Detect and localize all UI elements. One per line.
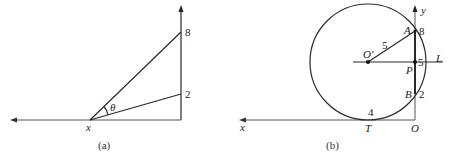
figure-b-origin-label: O [411, 122, 419, 134]
figure-b-center-point [366, 60, 370, 64]
figure-a-angle-label: θ [110, 101, 116, 113]
figure-b-line-L-label: L [435, 52, 442, 64]
figure-b-center-label: O' [363, 48, 374, 60]
figure-b-label-B: B [405, 88, 412, 100]
figure-a-left-arrow-icon [10, 118, 17, 123]
figure-b-x-axis-label: x [239, 121, 245, 133]
figure-a-angle-arc [104, 107, 108, 115]
figure-b-up-arrow-icon [413, 5, 418, 12]
figure-a-label-8: 8 [185, 26, 191, 38]
diagram-canvas: θ 8 2 x (a) y x A 8 5 O' L P 5 B 2 [0, 0, 451, 161]
figure-a-vertex-label: x [85, 121, 91, 133]
figure-b-y-axis-label: y [420, 4, 426, 16]
figure-b-label-P: P [405, 64, 413, 76]
figure-b-point-P [413, 60, 417, 64]
figure-b-label-A: A [403, 24, 411, 36]
figure-b: y x A 8 5 O' L P 5 B 2 4 T O (b) [239, 4, 443, 152]
figure-b-caption: (b) [326, 139, 339, 152]
figure-a-label-2: 2 [185, 88, 191, 100]
figure-b-label-4: 4 [368, 106, 374, 118]
figure-b-label-8: 8 [419, 25, 425, 37]
figure-a-caption: (a) [98, 139, 111, 152]
figure-b-label-5: 5 [418, 56, 424, 68]
figure-a-up-arrow-icon [179, 5, 184, 12]
figure-b-label-2: 2 [419, 88, 425, 100]
figure-a: θ 8 2 x (a) [10, 5, 191, 152]
figure-b-radius-label: 5 [382, 39, 388, 51]
figure-b-label-T: T [365, 122, 372, 134]
figure-b-point-A [414, 30, 417, 33]
